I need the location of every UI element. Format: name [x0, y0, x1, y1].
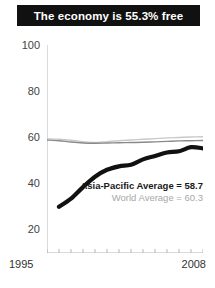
annotation-regional-average: Asia-Pacific Average = 58.7 [80, 180, 203, 191]
y-tick-label-20: 20 [8, 224, 40, 235]
title-banner: The economy is 55.3% free [17, 5, 200, 26]
annotation-world-average: World Average = 60.3 [112, 192, 203, 203]
y-tick-label-40: 40 [8, 178, 40, 189]
chart-container: The economy is 55.3% free 100 80 60 40 2… [0, 0, 215, 288]
y-tick-label-80: 80 [8, 86, 40, 97]
page-title: The economy is 55.3% free [34, 10, 184, 22]
x-tick-label-start: 1995 [9, 258, 33, 270]
x-tick-label-end: 2008 [182, 258, 206, 270]
chart-svg [47, 45, 203, 253]
y-tick-label-60: 60 [8, 132, 40, 143]
y-tick-label-100: 100 [8, 40, 40, 51]
plot-area [47, 45, 203, 253]
